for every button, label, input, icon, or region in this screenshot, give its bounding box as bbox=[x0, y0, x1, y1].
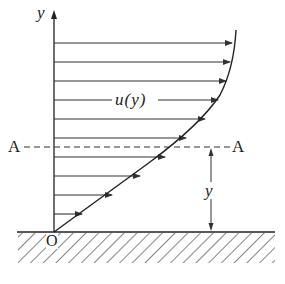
section-label-left: A bbox=[8, 138, 20, 155]
dimension-arrow-up-icon bbox=[209, 148, 214, 156]
dimension-arrow-down-icon bbox=[209, 223, 214, 231]
profile-label: u(y) bbox=[113, 91, 148, 108]
y-axis-arrowhead-icon bbox=[51, 10, 57, 19]
section-label-right: A bbox=[232, 138, 244, 155]
velocity-profile-curve bbox=[54, 30, 236, 232]
y-axis-label: y bbox=[37, 4, 45, 21]
origin-label: O bbox=[46, 233, 58, 249]
distance-label: y bbox=[205, 182, 213, 199]
